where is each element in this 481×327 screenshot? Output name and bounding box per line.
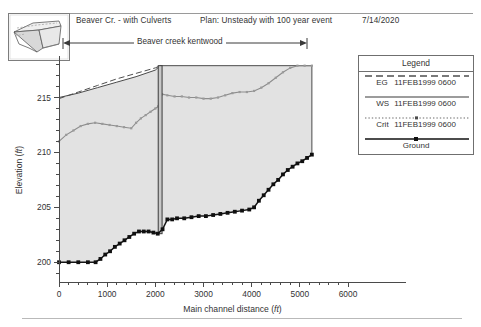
svg-text:205: 205 bbox=[37, 202, 51, 212]
legend-key-crit: Crit bbox=[376, 120, 394, 129]
legend-label-ws: WS11FEB1999 0600 bbox=[359, 99, 473, 108]
legend-row-eg: EG11FEB1999 0600 bbox=[359, 72, 473, 93]
svg-text:6000: 6000 bbox=[339, 289, 358, 299]
legend-label-crit: Crit11FEB1999 0600 bbox=[359, 120, 473, 129]
svg-text:5000: 5000 bbox=[291, 289, 310, 299]
profile-chart: 2002052102150100020003000400050006000Mai… bbox=[0, 0, 481, 327]
y-axis-title: Elevation (ft) bbox=[14, 146, 24, 194]
legend-title: Legend bbox=[359, 56, 473, 72]
legend-label-ground: Ground bbox=[359, 141, 473, 150]
legend-label-eg: EG11FEB1999 0600 bbox=[359, 78, 473, 87]
legend-value-ws: 11FEB1999 0600 bbox=[394, 99, 456, 108]
legend-key-ground: Ground bbox=[403, 141, 430, 150]
legend-box: Legend EG11FEB1999 0600 WS11FEB1999 0600… bbox=[358, 55, 474, 155]
footer-divider bbox=[22, 318, 462, 319]
svg-text:4000: 4000 bbox=[242, 289, 261, 299]
legend-row-ground: Ground bbox=[359, 135, 473, 156]
svg-text:3000: 3000 bbox=[194, 289, 213, 299]
legend-row-ws: WS11FEB1999 0600 bbox=[359, 93, 473, 114]
legend-key-ws: WS bbox=[376, 99, 394, 108]
svg-text:215: 215 bbox=[37, 93, 51, 103]
svg-text:1000: 1000 bbox=[98, 289, 117, 299]
legend-row-crit: Crit11FEB1999 0600 bbox=[359, 114, 473, 135]
legend-value-crit: 11FEB1999 0600 bbox=[394, 120, 456, 129]
legend-key-eg: EG bbox=[376, 78, 394, 87]
chart-canvas: 2002052102150100020003000400050006000Mai… bbox=[0, 0, 481, 327]
profile-plot-window: Beaver Cr. - with Culverts Plan: Unstead… bbox=[0, 0, 481, 327]
x-axis-title: Main channel distance (ft) bbox=[183, 304, 282, 314]
legend-value-eg: 11FEB1999 0600 bbox=[394, 78, 456, 87]
svg-text:200: 200 bbox=[37, 257, 51, 267]
svg-text:2000: 2000 bbox=[146, 289, 165, 299]
svg-text:0: 0 bbox=[57, 289, 62, 299]
svg-text:210: 210 bbox=[37, 147, 51, 157]
